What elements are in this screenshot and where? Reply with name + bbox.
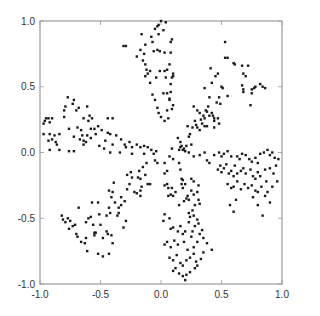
data-point — [190, 189, 192, 191]
data-point — [188, 136, 190, 138]
data-point — [111, 117, 113, 119]
data-point — [147, 72, 149, 74]
data-point — [196, 109, 198, 111]
data-point — [203, 87, 205, 89]
data-point — [86, 105, 88, 107]
data-point — [49, 149, 51, 151]
data-point — [276, 180, 278, 182]
data-point — [49, 121, 51, 123]
data-point — [182, 179, 184, 181]
data-point — [240, 170, 242, 172]
data-point — [193, 253, 195, 255]
data-point — [196, 191, 198, 193]
data-point — [208, 96, 210, 98]
data-point — [136, 192, 138, 194]
data-point — [197, 222, 199, 224]
data-point — [101, 129, 103, 131]
data-point — [163, 184, 165, 186]
data-point — [81, 134, 83, 136]
data-point — [149, 183, 151, 185]
data-point — [107, 233, 109, 235]
data-point — [44, 120, 46, 122]
data-point — [257, 191, 259, 193]
data-point — [82, 143, 84, 145]
data-point — [107, 132, 109, 134]
data-point — [271, 186, 273, 188]
data-point — [170, 51, 172, 53]
data-point — [140, 186, 142, 188]
data-point — [277, 158, 279, 160]
data-point — [150, 149, 152, 151]
data-point — [172, 104, 174, 106]
data-point — [274, 157, 276, 159]
data-point — [143, 53, 145, 55]
data-point — [144, 63, 146, 65]
data-point — [196, 264, 198, 266]
data-point — [240, 188, 242, 190]
data-point — [168, 257, 170, 259]
data-point — [122, 45, 124, 47]
data-point — [199, 154, 201, 156]
data-point — [67, 217, 69, 219]
data-point — [144, 174, 146, 176]
data-point — [91, 117, 93, 119]
y-tick-label: 0.5 — [21, 81, 35, 92]
data-point — [184, 150, 186, 152]
data-point — [86, 250, 88, 252]
data-point — [252, 175, 254, 177]
data-point — [202, 115, 204, 117]
data-point — [234, 63, 236, 65]
data-point — [266, 149, 268, 151]
data-point — [236, 155, 238, 157]
data-point — [218, 122, 220, 124]
data-point — [257, 162, 259, 164]
data-point — [125, 45, 127, 47]
series-arm-lower-left — [61, 153, 159, 258]
data-point — [203, 125, 205, 127]
data-point — [58, 149, 60, 151]
data-point — [72, 103, 74, 105]
data-point — [252, 196, 254, 198]
data-point — [86, 134, 88, 136]
data-point — [156, 49, 158, 51]
series-arm-bottom — [162, 155, 213, 281]
data-point — [194, 267, 196, 269]
data-point — [159, 70, 161, 72]
data-point — [224, 41, 226, 43]
data-point — [166, 109, 168, 111]
data-point — [242, 88, 244, 90]
data-point — [183, 147, 185, 149]
data-point — [191, 126, 193, 128]
data-point — [247, 187, 249, 189]
data-point — [145, 162, 147, 164]
data-point — [242, 167, 244, 169]
data-point — [222, 87, 224, 89]
data-point — [73, 99, 75, 101]
data-point — [102, 255, 104, 257]
data-point — [251, 92, 253, 94]
data-point — [73, 150, 75, 152]
data-point — [157, 24, 159, 26]
data-point — [224, 57, 226, 59]
data-point — [254, 157, 256, 159]
data-point — [82, 140, 84, 142]
data-point — [105, 230, 107, 232]
data-point — [172, 158, 174, 160]
data-point — [199, 112, 201, 114]
data-point — [168, 63, 170, 65]
data-point — [170, 83, 172, 85]
data-point — [68, 150, 70, 152]
data-point — [234, 164, 236, 166]
data-point — [67, 96, 69, 98]
data-point — [180, 183, 182, 185]
data-point — [125, 220, 127, 222]
data-point — [63, 116, 65, 118]
data-point — [226, 95, 228, 97]
data-point — [245, 75, 247, 77]
data-point — [248, 158, 250, 160]
data-point — [243, 183, 245, 185]
data-point — [166, 241, 168, 243]
data-point — [166, 69, 168, 71]
data-point — [213, 126, 215, 128]
data-point — [219, 103, 221, 105]
